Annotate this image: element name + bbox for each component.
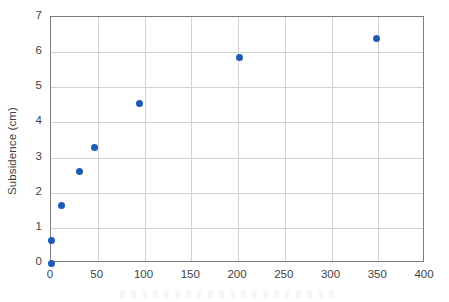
y-axis-tick-label: 2 <box>16 186 42 198</box>
x-axis-tick-label: 50 <box>77 269 117 281</box>
data-point <box>48 237 55 244</box>
x-axis-tick-label: 400 <box>404 269 444 281</box>
y-axis-tick-label: 5 <box>16 80 42 92</box>
gridline-horizontal <box>51 158 423 159</box>
y-axis-tick-label: 3 <box>16 151 42 163</box>
y-axis-tick-label: 7 <box>16 10 42 22</box>
plot-area <box>50 16 424 262</box>
data-point <box>76 168 83 175</box>
y-axis-tick-label: 6 <box>16 45 42 57</box>
gridline-vertical <box>285 17 286 261</box>
gridline-vertical <box>378 17 379 261</box>
gridline-horizontal <box>51 122 423 123</box>
x-axis-tick-label: 200 <box>217 269 257 281</box>
gridline-horizontal <box>51 193 423 194</box>
x-axis-tick-label: 100 <box>124 269 164 281</box>
x-axis-tick-label: 0 <box>30 269 70 281</box>
data-point <box>48 260 55 267</box>
x-axis-tick-label: 300 <box>311 269 351 281</box>
data-point <box>58 202 65 209</box>
gridline-horizontal <box>51 228 423 229</box>
scatter-chart: Subsidence (cm) 01234567 050100150200250… <box>0 0 449 302</box>
x-axis-tick-label: 250 <box>264 269 304 281</box>
gridline-vertical <box>98 17 99 261</box>
scan-artifact <box>120 290 340 298</box>
y-axis-tick-label: 4 <box>16 115 42 127</box>
gridline-vertical <box>332 17 333 261</box>
x-axis-tick-label: 350 <box>357 269 397 281</box>
x-axis-tick-label: 150 <box>170 269 210 281</box>
gridline-vertical <box>191 17 192 261</box>
gridline-vertical <box>145 17 146 261</box>
gridline-horizontal <box>51 87 423 88</box>
gridline-horizontal <box>51 52 423 53</box>
data-point <box>136 100 143 107</box>
y-axis-tick-label: 0 <box>16 256 42 268</box>
data-point <box>236 54 243 61</box>
y-axis-tick-label: 1 <box>16 221 42 233</box>
